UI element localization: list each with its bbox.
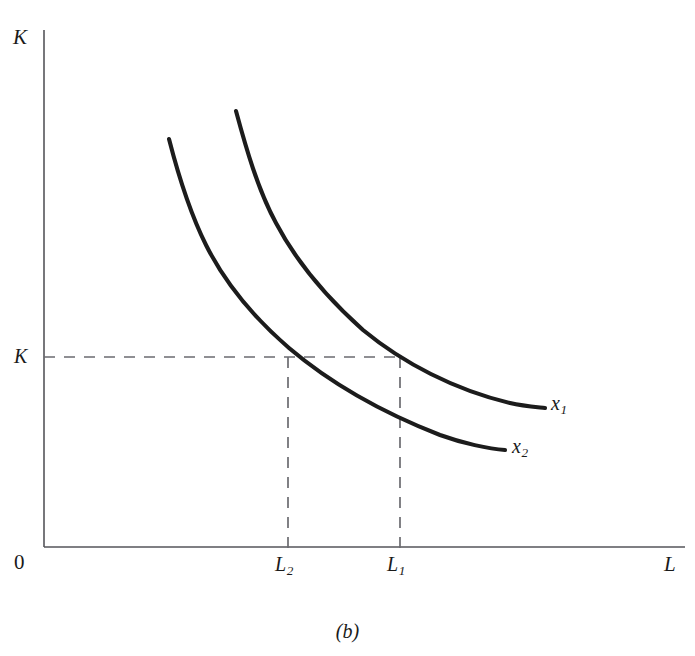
x-tick-label-l1: L1	[387, 554, 405, 577]
plot-canvas	[0, 0, 695, 656]
curve-label-x2-base: x	[512, 435, 521, 457]
isoquant-curve-x1	[236, 111, 545, 408]
curve-label-x2-sub: 2	[521, 445, 528, 460]
curve-label-x1-sub: 1	[560, 402, 567, 417]
origin-label: 0	[14, 552, 25, 573]
x-tick-label-l2-sub: 2	[286, 563, 293, 578]
isoquant-curve-x2	[169, 139, 505, 450]
x-tick-label-l2-base: L	[275, 553, 286, 575]
y-tick-label-k: K	[14, 346, 27, 366]
curve-label-x2: x2	[512, 436, 528, 459]
curve-label-x1-base: x	[551, 392, 560, 414]
x-tick-label-l1-sub: 1	[398, 563, 405, 578]
x-tick-label-l1-base: L	[387, 553, 398, 575]
curve-label-x1: x1	[551, 393, 567, 416]
x-axis-title: L	[664, 554, 676, 575]
y-axis-title: K	[13, 27, 27, 48]
x-tick-label-l2: L2	[275, 554, 293, 577]
figure-caption: (b)	[0, 621, 695, 641]
isoquant-figure: K L 0 K L2 L1 x1 x2 (b)	[0, 0, 695, 656]
